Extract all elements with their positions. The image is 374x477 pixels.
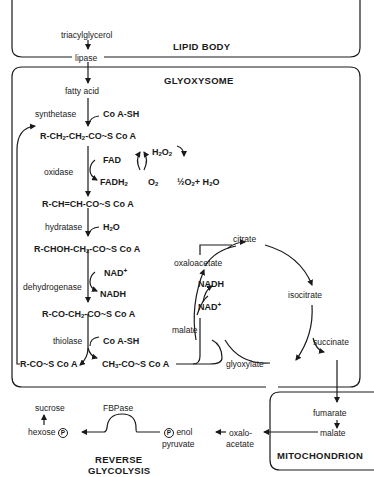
oxaloacetate-cytosol-label: oxalo- <box>229 429 252 438</box>
fad-label: FAD <box>103 156 121 165</box>
hexose-phosphate-label: hexose P <box>28 428 68 438</box>
phosphate-icon: P <box>164 428 174 438</box>
ketoacyl-coa-label: R-CO-CH2-CO~S Co A <box>42 310 135 319</box>
lipase-label: lipase <box>75 54 97 63</box>
glyoxysome-label: GLYOXYSOME <box>164 76 234 86</box>
glyoxylate-label: glyoxylate <box>226 360 264 369</box>
shortened-acyl-coa-label: R-CO~S Co A <box>20 360 77 369</box>
coa-sh-in-label: Co A-SH <box>103 110 139 119</box>
acyl-coa-label: R-CH2-CH2-CO~S Co A <box>40 132 136 141</box>
isocitrate-label: isocitrate <box>288 291 322 300</box>
reverse-glycolysis-label: REVERSE <box>95 455 143 465</box>
enoyl-coa-label: R-CH=CH-CO~S Co A <box>42 200 134 209</box>
hydroxyacyl-coa-label: R-CHOH-CH2-CO~S Co A <box>34 245 140 254</box>
hydratase-label: hydratase <box>45 223 82 232</box>
o2-label: O2 <box>148 178 158 187</box>
mitochondrion-label: MITOCHONDRION <box>277 451 363 461</box>
reverse-glycolysis-label-2: GLYCOLYSIS <box>88 466 151 476</box>
cycle-nadh-label: NADH <box>198 280 224 289</box>
pep-label-2: pyruvate <box>162 440 195 449</box>
triacylglycerol-label: triacylglycerol <box>61 31 113 40</box>
oxaloacetate-label: oxaloacetate <box>174 259 222 268</box>
fumarate-label: fumarate <box>313 409 347 418</box>
succinate-label: succinate <box>313 338 349 347</box>
citrate-label: citrate <box>233 235 256 244</box>
fadh2-label: FADH2 <box>100 178 128 187</box>
h2o2-label: H2O2 <box>152 148 172 157</box>
pep-label: P enol <box>164 428 192 438</box>
dehydrogenase-label: dehydrogenase <box>23 283 82 292</box>
thiolase-label: thiolase <box>53 337 82 346</box>
oxidase-label: oxidase <box>44 168 73 177</box>
coa-sh-thiolase-label: Co A-SH <box>103 337 139 346</box>
fbpase-label: FBPase <box>103 404 133 413</box>
mito-malate-label: malate <box>320 429 346 438</box>
nad-plus-label: NAD+ <box>104 268 127 278</box>
phosphate-icon: P <box>58 428 68 438</box>
sucrose-label: sucrose <box>35 404 65 413</box>
oxaloacetate-cytosol-label-2: acetate <box>226 440 254 449</box>
nadh-label: NADH <box>100 290 126 299</box>
lipid-body-label: LIPID BODY <box>173 42 230 52</box>
synthetase-label: synthetase <box>35 110 76 119</box>
acetyl-coa-label: CH3-CO~S Co A <box>102 360 169 369</box>
cycle-nad-plus-label: NAD+ <box>198 302 221 312</box>
fatty-acid-label: fatty acid <box>65 87 99 96</box>
water-in-label: H2O <box>103 223 120 232</box>
cycle-malate-label: malate <box>172 326 198 335</box>
water-oxygen-products-label: ½O2+ H2O <box>177 178 219 187</box>
